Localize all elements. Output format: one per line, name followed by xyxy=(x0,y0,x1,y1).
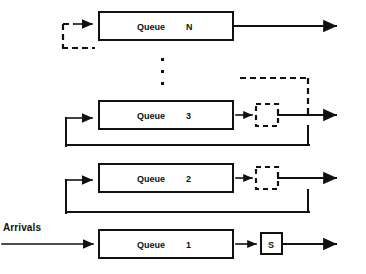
queue-box-1 xyxy=(99,230,233,258)
vertical-ellipsis xyxy=(161,58,164,85)
queue-row-3: Queue 3 xyxy=(66,78,336,146)
queue-label-2: Queue xyxy=(137,174,165,184)
queue-index-1: 1 xyxy=(186,240,191,250)
queue-label-n: Queue xyxy=(137,22,165,32)
diagram-canvas: Queue N Queue 3 xyxy=(0,0,366,274)
queue-index-3: 3 xyxy=(186,111,191,121)
arrivals-label: Arrivals xyxy=(3,222,41,233)
server-box-2-dashed xyxy=(256,167,278,189)
queue-index-2: 2 xyxy=(186,174,191,184)
queue-index-n: N xyxy=(186,22,193,32)
multilevel-feedback-queue-diagram: Queue N Queue 3 xyxy=(0,0,366,274)
queue-row-2: Queue 2 xyxy=(66,164,336,213)
queue-box-n xyxy=(99,12,233,40)
queue-row-1: Queue 1 S xyxy=(2,230,336,258)
queue-row-n: Queue N xyxy=(62,12,336,48)
queue-box-3 xyxy=(99,101,233,129)
server-label-s: S xyxy=(268,240,274,250)
queue-box-2 xyxy=(99,164,233,192)
server-box-3-dashed xyxy=(256,104,278,126)
queue-label-1: Queue xyxy=(137,240,165,250)
queue-label-3: Queue xyxy=(137,111,165,121)
feedback-loop-n-dashed xyxy=(62,24,95,48)
